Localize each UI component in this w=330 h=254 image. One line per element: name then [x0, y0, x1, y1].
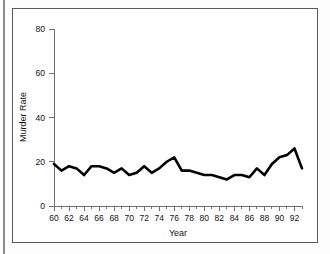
x-tick-label: 90 [275, 213, 285, 223]
data-series-line [54, 148, 302, 179]
x-tick-label: 74 [154, 213, 164, 223]
page-gutter-rule [3, 0, 5, 254]
x-tick-label: 60 [49, 213, 59, 223]
page-canvas: 020406080 606264666870727476788082848688… [0, 0, 330, 254]
x-tick-label: 64 [79, 213, 89, 223]
y-tick-label: 60 [36, 68, 46, 78]
x-tick-label-group: 6062646668707274767880828486889092 [49, 213, 299, 223]
y-tick-label-group: 020406080 [36, 24, 46, 211]
x-tick-label: 76 [170, 213, 180, 223]
x-tick-label: 62 [64, 213, 74, 223]
y-tick-label: 40 [36, 113, 46, 123]
chart-plot: 020406080 606264666870727476788082848688… [13, 9, 317, 242]
x-tick-label: 78 [185, 213, 195, 223]
x-tick-label: 84 [230, 213, 240, 223]
x-tick-label: 66 [94, 213, 104, 223]
y-tick-label: 0 [40, 201, 45, 211]
x-tick-label: 80 [200, 213, 210, 223]
y-tick-label: 20 [36, 157, 46, 167]
x-tick-label: 68 [109, 213, 119, 223]
y-axis-title: Murder Rate [18, 92, 28, 142]
x-tick-label: 88 [260, 213, 270, 223]
x-axis-title: Year [169, 228, 187, 238]
y-tick-group [49, 29, 54, 206]
x-tick-label: 72 [139, 213, 149, 223]
y-tick-label: 80 [36, 24, 46, 34]
x-tick-label: 82 [215, 213, 225, 223]
x-tick-group [54, 206, 294, 211]
figure-frame: 020406080 606264666870727476788082848688… [12, 8, 318, 243]
x-tick-label: 92 [290, 213, 300, 223]
x-tick-label: 86 [245, 213, 255, 223]
x-tick-label: 70 [124, 213, 134, 223]
